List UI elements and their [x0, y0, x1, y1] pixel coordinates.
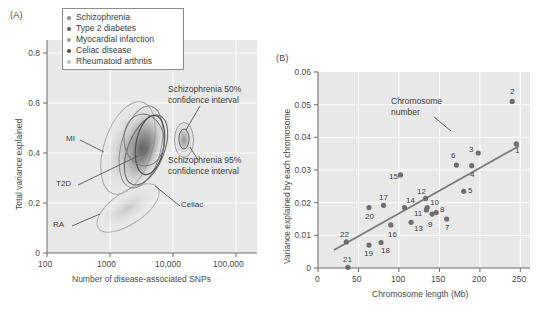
- point-chr-20: [366, 205, 371, 210]
- panel-a-ytick-0: 0: [16, 248, 40, 258]
- legend-marker-celiac-disease: [67, 49, 71, 53]
- legend-item-celiac-disease[interactable]: Celiac disease: [67, 45, 177, 56]
- legend-marker-myocardial-infarction: [67, 38, 71, 42]
- point-chr-16: [388, 222, 393, 227]
- point-chr-21: [345, 265, 350, 270]
- point-label-chr-12: 12: [417, 187, 426, 196]
- legend-item-rheumatoid-arthritis[interactable]: Rheumatoid arthritis: [67, 56, 177, 67]
- legend-item-myocardial-infarction[interactable]: Myocardial infarction: [67, 34, 177, 45]
- point-chr-3: [476, 150, 481, 155]
- legend-label-rheumatoid-arthritis: Rheumatoid arthritis: [76, 56, 152, 67]
- panel-b-xtick-250: 250: [512, 274, 526, 284]
- panel-b-xtick-150: 150: [431, 274, 445, 284]
- panel-a-ytick-0.6: 0.6: [16, 98, 40, 108]
- point-chr-11: [424, 207, 429, 212]
- figure-root: (A): [0, 0, 536, 310]
- panel-a-xtick-100000: 100,000: [213, 259, 244, 269]
- point-label-chr-5: 5: [468, 186, 472, 195]
- annotation-schizophrenia-95: Schizophrenia 95% confidence interval: [168, 155, 241, 176]
- panel-b-xtick-100: 100: [391, 274, 405, 284]
- annotation-schizophrenia-50: Schizophrenia 50% confidence interval: [168, 84, 241, 105]
- point-label-chr-20: 20: [365, 212, 374, 221]
- point-label-chr-2: 2: [510, 87, 514, 96]
- point-label-chr-3: 3: [469, 145, 473, 154]
- point-chr-6: [454, 163, 459, 168]
- panel-a: (A): [0, 0, 268, 310]
- panel-b-yaxis-title: Variance explained by each chromosome: [282, 109, 292, 264]
- panel-b-xtick-200: 200: [472, 274, 486, 284]
- panel-b-xaxis-title: Chromosome length (Mb): [372, 289, 468, 299]
- point-chr-17: [381, 203, 386, 208]
- panel-a-xtick-1000: 1000: [97, 259, 116, 269]
- legend-item-type-2-diabetes[interactable]: Type 2 diabetes: [67, 23, 177, 34]
- point-chr-13: [409, 220, 414, 225]
- label-mi: MI: [66, 134, 75, 143]
- panel-a-ytick-0.8: 0.8: [16, 48, 40, 58]
- point-label-chr-19: 19: [364, 249, 373, 258]
- legend-label-type-2-diabetes: Type 2 diabetes: [76, 23, 136, 34]
- label-celiac: Celiac: [181, 200, 203, 209]
- legend-item-schizophrenia[interactable]: Schizophrenia: [67, 12, 177, 23]
- point-label-chr-11: 11: [414, 209, 422, 218]
- panel-b-xtick-0: 0: [315, 274, 320, 284]
- point-label-chr-18: 18: [381, 246, 390, 255]
- legend-marker-type-2-diabetes: [67, 27, 71, 31]
- point-label-chr-17: 17: [379, 193, 388, 202]
- point-label-chr-6: 6: [451, 151, 455, 160]
- point-label-chr-21: 21: [343, 255, 352, 264]
- panel-a-xtick-100: 100: [38, 259, 52, 269]
- point-label-chr-16: 16: [388, 230, 397, 239]
- point-label-chr-4: 4: [470, 170, 474, 179]
- point-label-chr-9: 9: [428, 220, 432, 229]
- point-chr-9: [430, 212, 435, 217]
- point-label-chr-13: 13: [414, 224, 423, 233]
- panel-b-xtick-50: 50: [352, 274, 361, 284]
- point-label-chr-8: 8: [440, 205, 444, 214]
- point-label-chr-10: 10: [430, 198, 439, 207]
- panel-a-yaxis-title: Total variance explained: [14, 119, 24, 210]
- point-chr-4: [469, 163, 474, 168]
- panel-a-xtick-10000: 10,000: [155, 259, 181, 269]
- point-chr-2: [510, 99, 515, 104]
- point-label-chr-7: 7: [445, 223, 449, 232]
- point-label-chr-14: 14: [406, 196, 415, 205]
- legend-marker-rheumatoid-arthritis: [67, 60, 71, 64]
- panel-a-xaxis-title: Number of disease-associated SNPs: [72, 274, 211, 284]
- point-chr-7: [444, 216, 449, 221]
- point-chr-19: [366, 243, 371, 248]
- legend-label-schizophrenia: Schizophrenia: [76, 12, 130, 23]
- label-ra: RA: [53, 220, 64, 229]
- legend-marker-schizophrenia: [67, 16, 71, 20]
- panel-a-legend: Schizophrenia Type 2 diabetes Myocardial…: [62, 8, 184, 70]
- panel-b: (B): [268, 0, 536, 310]
- legend-label-myocardial-infarction: Myocardial infarction: [76, 34, 154, 45]
- ellipse-schizophrenia-ci: [175, 123, 194, 158]
- point-chr-15: [398, 172, 403, 177]
- point-label-chr-1: 1: [515, 146, 519, 155]
- point-label-chr-15: 15: [389, 172, 398, 181]
- point-chr-12: [423, 196, 428, 201]
- label-t2d: T2D: [56, 179, 71, 188]
- point-chr-5: [461, 189, 466, 194]
- panel-b-ytick-0: 0: [284, 263, 311, 273]
- legend-label-celiac-disease: Celiac disease: [76, 45, 131, 56]
- panel-b-ytick-0.06: 0.06: [284, 67, 311, 77]
- point-chr-22: [344, 239, 349, 244]
- point-label-chr-22: 22: [340, 230, 349, 239]
- point-chr-18: [379, 240, 384, 245]
- point-chr-14: [402, 205, 407, 210]
- annotation-chromosome-number: Chromosome number: [391, 96, 442, 117]
